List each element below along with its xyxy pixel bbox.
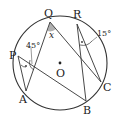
label-p: P xyxy=(9,49,17,62)
label-q: Q xyxy=(44,7,53,20)
label-angle-15: 15° xyxy=(97,29,111,38)
label-r: R xyxy=(73,8,82,21)
angle-45-leader xyxy=(31,48,32,64)
segment-pb xyxy=(18,56,86,101)
segment-qa xyxy=(26,22,50,91)
label-angle-45: 45° xyxy=(26,41,40,50)
label-angle-x: x xyxy=(49,30,54,40)
center-point xyxy=(59,62,62,65)
angle-p-mark xyxy=(25,65,27,67)
label-c: C xyxy=(103,81,111,94)
label-a: A xyxy=(18,93,28,106)
label-o: O xyxy=(56,67,65,80)
angle-r-mark xyxy=(81,41,83,43)
geometry-diagram: Q R P A B C O x 45° 15° xyxy=(0,0,117,121)
label-b: B xyxy=(83,104,91,117)
